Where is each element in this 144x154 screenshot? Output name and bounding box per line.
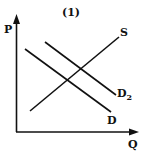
supply-demand-diagram: (1) P Q S D D2 bbox=[0, 0, 144, 154]
price-axis-arrow-icon bbox=[13, 14, 20, 24]
demand-curve-2 bbox=[45, 42, 116, 95]
demand-curve-2-label: D2 bbox=[117, 87, 132, 102]
price-axis-label: P bbox=[4, 23, 12, 36]
supply-curve-label: S bbox=[120, 26, 128, 39]
demand-curve-2-subscript: 2 bbox=[127, 92, 133, 102]
demand-curve-label: D bbox=[107, 114, 117, 127]
diagram-title: (1) bbox=[62, 6, 80, 19]
demand-curve-2-label-main: D bbox=[117, 87, 127, 100]
quantity-axis-label: Q bbox=[128, 138, 138, 151]
quantity-axis-arrow-icon bbox=[129, 129, 139, 136]
supply-curve bbox=[30, 37, 119, 111]
